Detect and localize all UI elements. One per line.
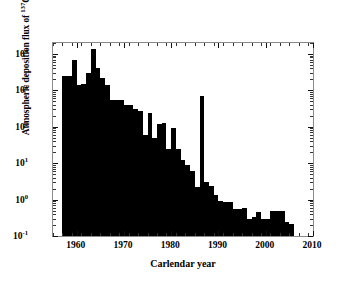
y-axis-tick-minor (310, 174, 313, 175)
y-tick-exponent: 2 (25, 120, 28, 127)
y-axis-tick-minor (53, 56, 56, 57)
y-axis-tick-minor (53, 167, 56, 168)
y-tick-label: 101 (0, 156, 28, 168)
y-tick-exponent: 4 (25, 47, 28, 54)
y-tick-exponent: 3 (25, 83, 28, 90)
x-tick-label: 1970 (103, 240, 143, 250)
y-axis-tick-minor (310, 146, 313, 147)
x-axis-tick-minor (91, 233, 92, 236)
x-axis-title: Carlendar year (52, 258, 314, 269)
x-axis-tick-major (77, 43, 78, 48)
y-axis-tick-minor (53, 135, 56, 136)
y-axis-tick-minor (53, 214, 56, 215)
y-axis-tick-minor (53, 182, 56, 183)
x-axis-tick-minor (110, 233, 111, 236)
y-axis-tick-minor (53, 101, 56, 102)
y-axis-tick-minor (310, 98, 313, 99)
y-axis-tick-minor (310, 68, 313, 69)
y-axis-tick-minor (53, 73, 56, 74)
figure-chart: Atmospheric deposition flux of 137Cs (Bq… (0, 0, 346, 283)
x-axis-tick-major (171, 43, 172, 48)
y-axis-tick-minor (53, 205, 56, 206)
y-tick-mantissa: 10 (15, 122, 25, 132)
y-axis-tick-minor (53, 203, 56, 204)
y-axis-tick-minor (310, 152, 313, 153)
x-axis-tick-minor (176, 233, 177, 236)
x-axis-tick-minor (233, 43, 234, 46)
y-tick-label: 102 (0, 120, 28, 132)
y-axis-tick-minor (53, 57, 56, 58)
x-axis-tick-minor (53, 233, 54, 236)
x-axis-tick-minor (148, 43, 149, 46)
y-axis-tick-minor (310, 205, 313, 206)
x-axis-tick-minor (223, 233, 224, 236)
y-axis-tick-minor (310, 65, 313, 66)
x-axis-tick-minor (157, 233, 158, 236)
y-axis-tick-minor (53, 105, 56, 106)
x-axis-tick-minor (270, 233, 271, 236)
x-axis-tick-minor (195, 233, 196, 236)
x-tick-label: 2010 (292, 240, 332, 250)
y-axis-tick-minor (53, 116, 56, 117)
x-axis-tick-minor (204, 43, 205, 46)
x-axis-tick-minor (81, 43, 82, 46)
x-axis-tick-major (124, 231, 125, 236)
y-axis-tick-minor (310, 135, 313, 136)
y-axis-tick-minor (53, 109, 56, 110)
y-axis-tick-minor (53, 174, 56, 175)
x-axis-tick-minor (138, 43, 139, 46)
x-axis-tick-minor (299, 233, 300, 236)
x-axis-tick-minor (148, 233, 149, 236)
x-axis-tick-minor (195, 43, 196, 46)
x-axis-tick-major (266, 43, 267, 48)
x-axis-tick-minor (242, 43, 243, 46)
y-axis-tick-minor (310, 60, 313, 61)
y-axis-tick-minor (53, 62, 56, 63)
y-axis-tick-minor (53, 211, 56, 212)
y-axis-tick-minor (310, 57, 313, 58)
y-axis-tick-minor (53, 94, 56, 95)
y-axis-tick-minor (310, 109, 313, 110)
y-axis-tick-minor (53, 60, 56, 61)
x-axis-tick-minor (166, 233, 167, 236)
x-axis-tick-minor (129, 233, 130, 236)
y-tick-exponent: -1 (23, 229, 29, 236)
y-axis-tick-minor (310, 219, 313, 220)
x-axis-tick-minor (242, 233, 243, 236)
x-axis-tick-minor (252, 43, 253, 46)
x-axis-tick-minor (119, 43, 120, 46)
x-axis-tick-minor (185, 233, 186, 236)
y-axis-tick-minor (310, 225, 313, 226)
y-tick-exponent: 1 (25, 156, 28, 163)
x-tick-label: 1960 (56, 240, 96, 250)
x-tick-label: 1980 (150, 240, 190, 250)
y-axis-tick-minor (53, 225, 56, 226)
y-axis-tick-minor (310, 94, 313, 95)
y-axis-tick-minor (310, 105, 313, 106)
y-axis-tick-minor (310, 189, 313, 190)
y-axis-tick-minor (310, 171, 313, 172)
y-axis-tick-minor (53, 178, 56, 179)
bars-container (53, 43, 313, 236)
y-axis-tick-minor (53, 171, 56, 172)
x-tick-label: 2000 (245, 240, 285, 250)
x-axis-tick-minor (233, 233, 234, 236)
y-tick-exponent: 0 (25, 193, 28, 200)
y-axis-tick-minor (310, 79, 313, 80)
y-axis-tick-minor (310, 96, 313, 97)
y-axis-tick-major (53, 236, 58, 237)
y-tick-mantissa: 10 (15, 86, 25, 96)
y-axis-tick-minor (53, 65, 56, 66)
y-axis-tick-minor (310, 56, 313, 57)
y-axis-tick-minor (53, 98, 56, 99)
x-axis-tick-minor (308, 43, 309, 46)
x-axis-tick-minor (176, 43, 177, 46)
x-axis-tick-minor (280, 233, 281, 236)
y-axis-tick-minor (53, 79, 56, 80)
y-axis-tick-minor (53, 169, 56, 170)
plot-area (52, 42, 314, 237)
x-axis-tick-minor (289, 233, 290, 236)
x-axis-tick-minor (185, 43, 186, 46)
y-axis-tick-minor (310, 165, 313, 166)
x-axis-tick-minor (81, 233, 82, 236)
